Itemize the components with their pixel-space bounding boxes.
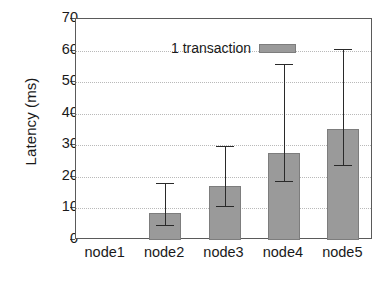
error-bar-cap-lower [216, 206, 234, 207]
bar-chart: Latency (ms) 010203040506070 1 transacti… [0, 0, 389, 284]
gridline [76, 82, 371, 83]
error-bar-line [225, 146, 226, 206]
x-tick-label-node4: node4 [253, 245, 312, 260]
error-bar-cap-upper [334, 49, 352, 50]
error-bar-cap-upper [275, 64, 293, 65]
error-bar-line [284, 64, 285, 181]
error-bar-line [165, 183, 166, 225]
x-tick-label-node5: node5 [313, 245, 372, 260]
x-tick-label-node2: node2 [134, 245, 193, 260]
error-bar-cap-upper [156, 183, 174, 184]
error-bar-cap-lower [156, 225, 174, 226]
plot-area: 1 transaction [75, 18, 372, 239]
error-bar-line [343, 49, 344, 165]
error-bar-cap-lower [275, 181, 293, 182]
x-tick-label-node1: node1 [75, 245, 134, 260]
x-tick-label-node3: node3 [194, 245, 253, 260]
legend: 1 transaction [171, 40, 296, 56]
legend-item-label: 1 transaction [171, 40, 251, 56]
gridline [76, 114, 371, 115]
error-bar-cap-upper [216, 146, 234, 147]
error-bar-cap-lower [334, 165, 352, 166]
y-axis-title: Latency (ms) [22, 12, 39, 232]
legend-item-swatch [259, 44, 296, 53]
